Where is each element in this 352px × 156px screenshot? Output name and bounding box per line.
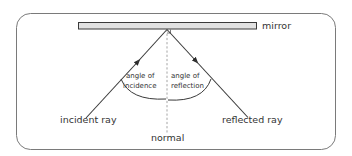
reflection-diagram: mirror angle of incidence angle of refle… bbox=[0, 0, 352, 156]
reflected-ray-label: reflected ray bbox=[222, 114, 283, 125]
incident-ray-label: incident ray bbox=[60, 114, 117, 125]
mirror-label: mirror bbox=[262, 20, 291, 31]
normal-label: normal bbox=[151, 132, 184, 143]
angle-of-incidence-label-line2: incidence bbox=[123, 82, 157, 90]
angle-of-reflection-label-line2: reflection bbox=[171, 82, 204, 90]
mirror-bar bbox=[79, 23, 257, 30]
diagram-canvas: mirror angle of incidence angle of refle… bbox=[0, 0, 352, 156]
angle-of-incidence-label-line1: angle of bbox=[126, 72, 155, 80]
angle-of-reflection-label-line1: angle of bbox=[171, 72, 200, 80]
